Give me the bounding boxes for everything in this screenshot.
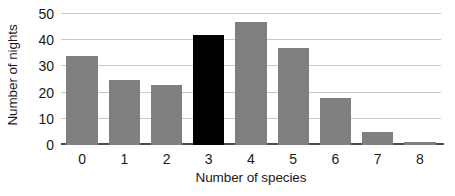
x-tick-label-6: 6 <box>315 150 355 168</box>
x-tick-label-1: 1 <box>104 150 144 168</box>
bar-7 <box>362 132 393 145</box>
x-axis-tick-labels: 012345678 <box>61 150 441 170</box>
bar-5 <box>278 48 309 145</box>
bar-8 <box>404 142 435 145</box>
bar-4 <box>235 22 266 145</box>
y-axis-title: Number of nights <box>2 2 24 148</box>
y-tick-label-10: 10 <box>24 112 54 126</box>
bar-2 <box>151 85 182 145</box>
y-axis-tick-labels: 01020304050 <box>24 0 54 196</box>
plot-area <box>61 14 441 145</box>
x-tick-label-7: 7 <box>358 150 398 168</box>
x-tick-label-3: 3 <box>189 150 229 168</box>
bar-0 <box>66 56 97 145</box>
y-tick-label-0: 0 <box>24 138 54 152</box>
bar-3 <box>193 35 224 145</box>
x-axis-title: Number of species <box>61 170 441 185</box>
bar-chart-figure: Number of nights 01020304050 012345678 N… <box>0 0 455 196</box>
y-tick-label-20: 20 <box>24 86 54 100</box>
bar-6 <box>320 98 351 145</box>
bar-1 <box>109 80 140 146</box>
x-tick-label-8: 8 <box>400 150 440 168</box>
bar-series <box>61 14 441 145</box>
y-tick-label-30: 30 <box>24 59 54 73</box>
y-tick-label-50: 50 <box>24 7 54 21</box>
x-tick-label-5: 5 <box>273 150 313 168</box>
y-tick-label-40: 40 <box>24 33 54 47</box>
x-tick-label-0: 0 <box>62 150 102 168</box>
x-tick-label-2: 2 <box>147 150 187 168</box>
x-tick-label-4: 4 <box>231 150 271 168</box>
